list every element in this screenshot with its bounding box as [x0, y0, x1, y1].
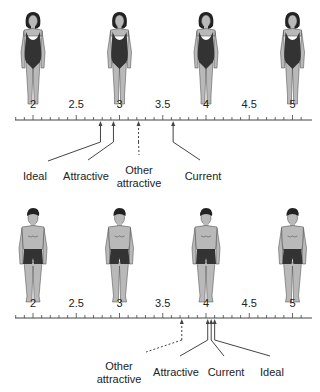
scale-tick-label: 4.5 — [242, 98, 257, 110]
marker-label: Attractive — [63, 170, 109, 182]
scale-tick-label: 2.5 — [69, 98, 84, 110]
arrow-head-icon — [111, 121, 115, 126]
marker-current: Current — [208, 319, 245, 378]
marker-label: Other — [105, 360, 133, 372]
arrow-head-icon — [137, 121, 141, 126]
male-figure-icon — [279, 208, 307, 302]
marker-label: Current — [208, 366, 245, 378]
scale-tick-label: 4 — [203, 98, 209, 110]
female-figure-icon — [21, 12, 45, 104]
male-figure-icon — [19, 208, 47, 302]
marker-label: Ideal — [260, 366, 284, 378]
marker-label: Current — [185, 170, 222, 182]
scale-tick-label: 2 — [30, 98, 36, 110]
male-figure-icon — [192, 208, 220, 302]
scale-tick-label: 3.5 — [155, 297, 170, 309]
scale-tick-label: 3.5 — [155, 98, 170, 110]
female-figure-icon — [194, 12, 218, 104]
scale-tick-label: 2.5 — [69, 297, 84, 309]
marker-label: attractive — [117, 177, 162, 189]
arrow-head-icon — [213, 319, 217, 324]
women-body-image-panel: 22.533.544.55IdealAttractiveOtherattract… — [0, 0, 320, 196]
marker-label: Attractive — [153, 366, 199, 378]
female-figure-icon — [281, 12, 305, 104]
scale-tick-label: 2 — [30, 297, 36, 309]
arrow-head-icon — [206, 319, 210, 324]
marker-label: Ideal — [23, 170, 47, 182]
scale-tick-label: 4.5 — [242, 297, 257, 309]
marker-label: attractive — [97, 373, 142, 385]
scale-tick-label: 3 — [116, 98, 122, 110]
arrow-head-icon — [98, 121, 102, 126]
scale-ticks — [16, 313, 301, 318]
arrow-head-icon — [171, 121, 175, 126]
scale-tick-label: 4 — [203, 297, 209, 309]
marker-label: Other — [125, 164, 153, 176]
scale-tick-label: 3 — [116, 297, 122, 309]
scale-tick-label: 5 — [289, 297, 295, 309]
arrow-head-icon — [180, 319, 184, 324]
scale-tick-label: 5 — [289, 98, 295, 110]
marker-current: Current — [171, 121, 221, 182]
female-figure-icon — [108, 12, 132, 104]
men-body-image-panel: 22.533.544.55OtherattractiveAttractiveCu… — [0, 196, 320, 392]
marker-other-attractive: Otherattractive — [117, 121, 162, 189]
male-figure-icon — [106, 208, 134, 302]
marker-attractive: Attractive — [63, 121, 115, 182]
arrow-head-icon — [209, 319, 213, 324]
women-scale-diagram: 22.533.544.55IdealAttractiveOtherattract… — [0, 0, 320, 196]
men-scale-diagram: 22.533.544.55OtherattractiveAttractiveCu… — [0, 196, 320, 392]
scale-ticks — [16, 115, 301, 120]
